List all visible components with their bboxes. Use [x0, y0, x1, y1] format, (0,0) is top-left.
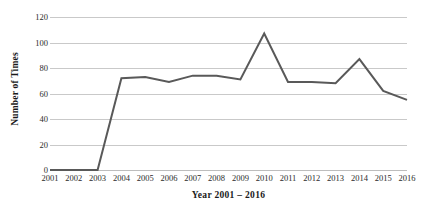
series-line-number-of-times: [50, 17, 407, 170]
y-tick-label-60: 60: [26, 89, 48, 98]
y-tick-label-80: 80: [26, 64, 48, 73]
x-axis-title: Year 2001 – 2016: [50, 190, 407, 200]
y-axis-tick-labels: 020406080100120: [26, 10, 48, 176]
x-tick-label-2011: 2011: [280, 172, 297, 184]
y-axis-title-label: Number of Times: [10, 52, 20, 126]
x-tick-label-2013: 2013: [327, 172, 344, 184]
x-tick-label-2010: 2010: [256, 172, 273, 184]
x-axis-tick-labels: 2001200220032004200520062007200820092010…: [50, 172, 407, 186]
x-tick-label-2001: 2001: [42, 172, 59, 184]
x-tick-label-2007: 2007: [184, 172, 201, 184]
x-tick-label-2008: 2008: [208, 172, 225, 184]
x-tick-label-2014: 2014: [351, 172, 368, 184]
y-tick-label-40: 40: [26, 115, 48, 124]
x-tick-label-2004: 2004: [113, 172, 130, 184]
y-tick-label-120: 120: [26, 13, 48, 22]
gridline-0: [50, 170, 407, 171]
y-tick-label-20: 20: [26, 140, 48, 149]
x-tick-label-2012: 2012: [303, 172, 320, 184]
y-axis-title: Number of Times: [4, 0, 26, 178]
x-tick-label-2002: 2002: [65, 172, 82, 184]
line-chart: Number of Times 020406080100120 20012002…: [0, 0, 422, 213]
plot-area: [50, 17, 407, 170]
x-tick-label-2009: 2009: [232, 172, 249, 184]
x-tick-label-2016: 2016: [399, 172, 416, 184]
x-tick-label-2003: 2003: [89, 172, 106, 184]
x-tick-label-2015: 2015: [375, 172, 392, 184]
x-tick-label-2006: 2006: [161, 172, 178, 184]
y-tick-label-100: 100: [26, 38, 48, 47]
x-tick-label-2005: 2005: [137, 172, 154, 184]
